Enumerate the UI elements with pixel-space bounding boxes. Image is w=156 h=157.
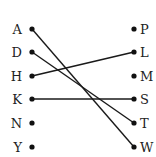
left-label: A <box>12 22 23 37</box>
connection-line <box>32 52 134 123</box>
left-dot[interactable] <box>29 96 34 101</box>
right-dot[interactable] <box>131 96 136 101</box>
connection-lines <box>32 29 134 147</box>
right-column: PLMSTW <box>131 22 154 155</box>
right-label: T <box>140 116 149 131</box>
right-dot[interactable] <box>131 26 136 31</box>
right-dot[interactable] <box>131 144 136 149</box>
left-dot[interactable] <box>29 120 34 125</box>
right-dot[interactable] <box>131 120 136 125</box>
left-column: ADHKNY <box>11 22 35 155</box>
left-label: Y <box>12 140 22 155</box>
right-label: L <box>140 45 149 60</box>
left-label: K <box>12 92 22 107</box>
left-dot[interactable] <box>29 144 34 149</box>
left-label: N <box>11 116 22 131</box>
right-label: S <box>140 92 149 107</box>
right-label: W <box>140 140 154 155</box>
right-dot[interactable] <box>131 49 136 54</box>
connection-line <box>32 52 134 76</box>
matching-diagram: ADHKNY PLMSTW <box>0 0 156 157</box>
right-dot[interactable] <box>131 73 136 78</box>
left-dot[interactable] <box>29 26 34 31</box>
left-label: H <box>11 69 22 84</box>
right-label: M <box>140 69 153 84</box>
left-dot[interactable] <box>29 73 34 78</box>
right-label: P <box>140 22 149 37</box>
left-dot[interactable] <box>29 49 34 54</box>
left-label: D <box>12 45 22 60</box>
